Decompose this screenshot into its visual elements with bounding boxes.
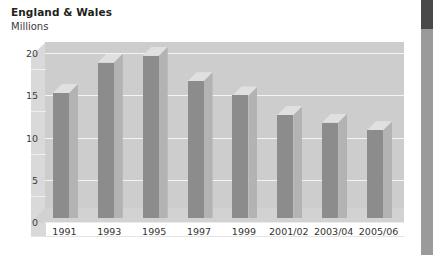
bar-side-face xyxy=(159,47,168,218)
x-axis-label: 1999 xyxy=(232,226,256,237)
bar-front-face xyxy=(277,115,293,218)
accent-bar-cap xyxy=(421,0,433,29)
plot-area: 05101520 xyxy=(31,42,404,232)
bar xyxy=(188,72,213,218)
bar-front-face xyxy=(143,56,159,218)
x-axis-label: 1997 xyxy=(187,226,211,237)
y-axis-label: 0 xyxy=(32,217,38,228)
bar-side-face xyxy=(248,86,257,218)
x-axis-label: 1995 xyxy=(142,226,166,237)
axis-baseline xyxy=(45,222,404,223)
bar xyxy=(277,106,302,218)
y-axis-label: 5 xyxy=(32,174,38,185)
bar-side-face xyxy=(69,84,78,218)
bar-front-face xyxy=(53,93,69,218)
right-edge-accent-bar xyxy=(421,0,433,255)
bar xyxy=(232,86,257,218)
chart-subtitle: Millions xyxy=(11,20,271,33)
bar xyxy=(322,114,347,218)
bar-side-face xyxy=(383,121,392,218)
bar xyxy=(367,121,392,218)
chart-title: England & Wales xyxy=(11,6,271,19)
bar xyxy=(98,54,123,218)
bar xyxy=(143,47,168,218)
bar xyxy=(53,84,78,218)
bar-front-face xyxy=(367,130,383,218)
bar-front-face xyxy=(98,63,114,218)
x-axis-label: 1993 xyxy=(97,226,121,237)
bar-side-face xyxy=(338,114,347,218)
x-axis-label: 2003/04 xyxy=(314,226,353,237)
chart-header: England & Wales Millions xyxy=(11,6,271,33)
bar-front-face xyxy=(232,95,248,218)
y-axis-label: 10 xyxy=(26,132,38,143)
x-axis-label: 1991 xyxy=(52,226,76,237)
y-axis-label: 20 xyxy=(26,48,38,59)
bar-front-face xyxy=(322,123,338,218)
y-axis-label: 15 xyxy=(26,90,38,101)
bar-side-face xyxy=(114,54,123,218)
bar-side-face xyxy=(204,72,213,218)
bar-front-face xyxy=(188,81,204,218)
x-axis-label: 2005/06 xyxy=(359,226,398,237)
bar-side-face xyxy=(293,106,302,218)
chart-container: England & Wales Millions 05101520 199119… xyxy=(0,0,433,255)
x-axis-label: 2001/02 xyxy=(269,226,308,237)
